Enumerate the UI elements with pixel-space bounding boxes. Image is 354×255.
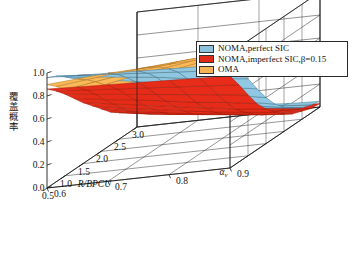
legend-swatch-noma-perfect xyxy=(199,45,214,53)
legend-item-noma-imperfect[interactable]: NOMA,imperfect SIC,β=0.15 xyxy=(199,54,344,64)
legend-label-oma: OMA xyxy=(218,65,239,74)
svg-text:0.4: 0.4 xyxy=(33,137,45,147)
legend-label-noma-perfect: NOMA,perfect SIC xyxy=(218,44,289,53)
svg-text:0.7: 0.7 xyxy=(115,182,127,192)
svg-text:1.0: 1.0 xyxy=(60,179,72,189)
svg-text:2.0: 2.0 xyxy=(96,154,108,164)
svg-text:0.6: 0.6 xyxy=(54,189,66,199)
legend-item-noma-perfect[interactable]: NOMA,perfect SIC xyxy=(199,44,344,54)
svg-text:3.0: 3.0 xyxy=(132,130,144,140)
svg-text:1.0: 1.0 xyxy=(33,68,45,78)
z-axis-label: 覆盖概率 xyxy=(8,92,18,132)
svg-text:0.9: 0.9 xyxy=(237,169,249,179)
legend-label-noma-imperfect: NOMA,imperfect SIC,β=0.15 xyxy=(218,55,326,64)
legend: NOMA,perfect SIC NOMA,imperfect SIC,β=0.… xyxy=(196,41,348,77)
legend-item-oma[interactable]: OMA xyxy=(199,65,344,75)
surface-plot-3d: 0.00.20.40.60.81.00.51.01.52.02.53.00.60… xyxy=(0,0,354,255)
svg-text:0.8: 0.8 xyxy=(33,91,45,101)
figure-container: 0.00.20.40.60.81.00.51.01.52.02.53.00.60… xyxy=(0,0,354,255)
svg-text:R/BPCU: R/BPCU xyxy=(77,179,112,189)
legend-swatch-oma xyxy=(199,66,214,74)
svg-text:2.5: 2.5 xyxy=(114,142,126,152)
svg-text:1.5: 1.5 xyxy=(78,167,90,177)
svg-text:0.2: 0.2 xyxy=(33,160,45,170)
svg-text:0.6: 0.6 xyxy=(33,114,45,124)
svg-text:0.5: 0.5 xyxy=(42,191,54,201)
svg-text:0.8: 0.8 xyxy=(176,176,188,186)
legend-swatch-noma-imperfect xyxy=(199,55,214,63)
